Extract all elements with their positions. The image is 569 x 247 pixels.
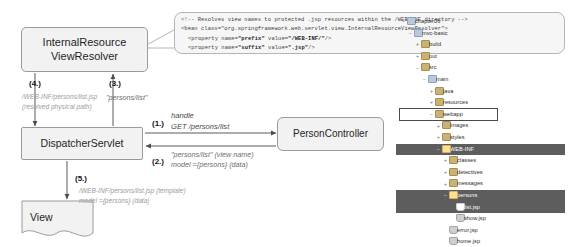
tree-item-label: list.jsp [464,205,480,211]
tree-item-label: home.jsp [457,239,480,245]
tree-item-java[interactable]: +java [400,86,569,98]
tree-item-show-jsp[interactable]: show.jsp [400,213,569,225]
jsp-file-icon [456,203,464,213]
tree-item-list-jsp[interactable]: list.jsp [396,202,565,214]
tree-item-resources[interactable]: +resources [400,97,569,109]
tree-item-mvc-basic[interactable]: −mvc-basic [400,28,569,40]
step-5-note: /WEB-INF/persons/list.jsp (template) mod… [79,186,186,205]
collapse-icon[interactable]: − [414,66,421,71]
node-person-controller[interactable]: PersonController [277,117,384,151]
tree-item-src[interactable]: −src [400,62,569,74]
folder-icon [449,191,457,201]
expand-icon[interactable]: + [428,100,435,105]
folder-icon [435,110,443,120]
step-4-number: (4.) [29,79,41,88]
step-2-note: "persons/list" (view name) model ={perso… [171,150,254,171]
tree-item-label: classes [457,158,476,164]
expand-icon[interactable]: + [414,42,421,47]
folder-icon [421,63,429,73]
tree-item-label: messages [457,181,483,187]
folder-icon [449,179,457,189]
tree-item-detectives[interactable]: +detectives [400,167,569,179]
step-2-number: (2.) [152,157,164,166]
module-icon [407,17,415,27]
tree-item-home-jsp[interactable]: home.jsp [400,236,569,247]
step-5-number: (5.) [75,174,87,183]
collapse-icon[interactable]: − [400,19,407,24]
expand-icon[interactable]: + [428,89,435,94]
expand-icon[interactable]: + [435,124,442,129]
folder-icon [421,52,429,62]
folder-icon [442,121,450,131]
folder-icon [435,87,443,97]
tree-item-messages[interactable]: +messages [400,178,569,190]
tree-item-label: src [429,65,437,71]
tree-item-label: webapp [443,112,463,118]
tree-item-images[interactable]: +images [400,120,569,132]
expand-icon[interactable]: + [442,182,449,187]
tree-item-styles[interactable]: +styles [400,132,569,144]
tree-item-label: images [450,123,468,129]
expand-icon[interactable]: + [435,135,442,140]
tree-item-label: detectives [457,170,483,176]
expand-icon[interactable]: + [442,158,449,163]
collapse-icon[interactable]: − [407,31,414,36]
tree-item-label: build [429,42,441,48]
tree-item-label: resources [443,100,468,106]
tree-item-label: show.jsp [464,216,486,222]
folder-icon [421,40,429,50]
jsp-file-icon [456,214,464,224]
tree-item-label: error.jsp [457,228,478,234]
tree-item-label: main [436,77,448,83]
tree-item-label: out [429,54,437,60]
node-label-line1: InternalResource [43,36,127,50]
collapse-icon[interactable]: − [428,112,435,117]
node-label: PersonController [293,128,368,141]
step-3-note: "persons/list" [106,93,147,103]
project-file-tree[interactable]: −chapter06−mvc-basic+build+out−src−main+… [400,16,569,242]
folder-icon [449,156,457,166]
node-label-line2: ViewResolver [43,50,127,64]
module-icon [414,29,422,39]
collapse-icon[interactable]: − [442,193,449,198]
tree-item-build[interactable]: +build [400,39,569,51]
jsp-file-icon [449,237,457,247]
node-view-label: View [30,211,53,223]
tree-item-out[interactable]: +out [400,51,569,63]
node-dispatcher-servlet[interactable]: DispatcherServlet [21,127,143,160]
folder-icon [442,133,450,143]
folder-icon [449,168,457,178]
tree-item-label: styles [450,135,465,141]
folder-icon [442,145,450,155]
jsp-file-icon [449,226,457,236]
step-1-number: (1.) [152,119,164,128]
step-4-note: /WEB-INF/persons/list.jsp (resolved phys… [22,92,97,111]
collapse-icon[interactable]: − [421,77,428,82]
tree-item-label: java [443,89,453,95]
expand-icon[interactable]: + [442,170,449,175]
tree-item-label: persons [457,193,477,199]
tree-item-classes[interactable]: +classes [400,155,569,167]
tree-item-label: mvc-basic [422,31,448,37]
diagram-canvas: InternalResource ViewResolver Dispatcher… [0,0,569,247]
folder-icon [435,98,443,108]
node-label: DispatcherServlet [41,137,124,150]
tree-item-main[interactable]: −main [400,74,569,86]
tree-item-chapter06[interactable]: −chapter06 [400,16,569,28]
tree-item-label: WEB-INF [450,147,474,153]
tree-item-label: chapter06 [415,19,440,25]
expand-icon[interactable]: + [414,54,421,59]
step-3-number: (3.) [109,79,121,88]
tree-item-persons[interactable]: −persons [396,190,565,202]
tree-item-web-inf[interactable]: −WEB-INF [396,144,565,156]
tree-item-error-jsp[interactable]: error.jsp [400,225,569,237]
step-1-note: handle GET /persons/list [171,110,229,132]
tree-item-webapp[interactable]: −webapp [400,109,497,121]
node-internal-resource-view-resolver[interactable]: InternalResource ViewResolver [21,27,148,72]
collapse-icon[interactable]: − [435,147,442,152]
module-icon [428,75,436,85]
